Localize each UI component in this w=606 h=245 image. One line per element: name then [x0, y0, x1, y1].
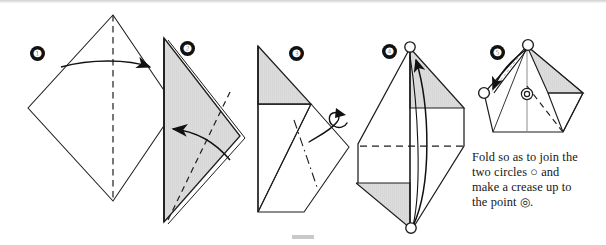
step-1-badge: ❶: [30, 46, 45, 61]
right-body-outline: [413, 108, 464, 228]
inner-fold-line: [258, 104, 311, 212]
caption-line-2-text-a: two circles: [472, 165, 527, 179]
open-circle-marker-top: [405, 42, 415, 52]
step-2-badge: ❷: [180, 41, 195, 56]
double-circle-marker-inner: [524, 91, 529, 96]
caption-line-3: make a crease up to: [472, 180, 604, 195]
step-4-figure: [356, 36, 478, 238]
curl-arrow-head: [335, 108, 346, 118]
lower-left-shaded-triangle: [356, 183, 410, 228]
step-3-figure: [252, 38, 364, 228]
caption-line-4-period: .: [530, 195, 533, 209]
upper-right-shaded-triangle: [410, 48, 464, 108]
left-body-outline: [358, 48, 410, 183]
caption-line-4-text-a: the point: [472, 195, 517, 209]
open-circle-marker-left: [479, 88, 490, 99]
open-circle-marker-bottom: [406, 223, 416, 233]
instruction-caption: Fold so as to join the two circles ○ and…: [472, 150, 604, 210]
diagram-sheet: ❶ ❷: [0, 0, 606, 245]
step-4-badge: ❹: [382, 44, 397, 59]
caption-line-2: two circles ○ and: [472, 165, 604, 180]
page-bottom-mark: [292, 235, 314, 239]
page-top-rule: [0, 0, 606, 3]
step-5-badge: ❺: [490, 45, 505, 60]
open-circle-glyph: ○: [530, 165, 538, 179]
double-circle-glyph: ◎: [520, 195, 530, 209]
caption-line-4: the point ◎.: [472, 195, 604, 210]
open-circle-marker-apex: [523, 40, 534, 51]
caption-line-2-text-b: and: [541, 165, 559, 179]
step-3-badge: ❸: [289, 46, 304, 61]
caption-line-1: Fold so as to join the: [472, 150, 604, 165]
